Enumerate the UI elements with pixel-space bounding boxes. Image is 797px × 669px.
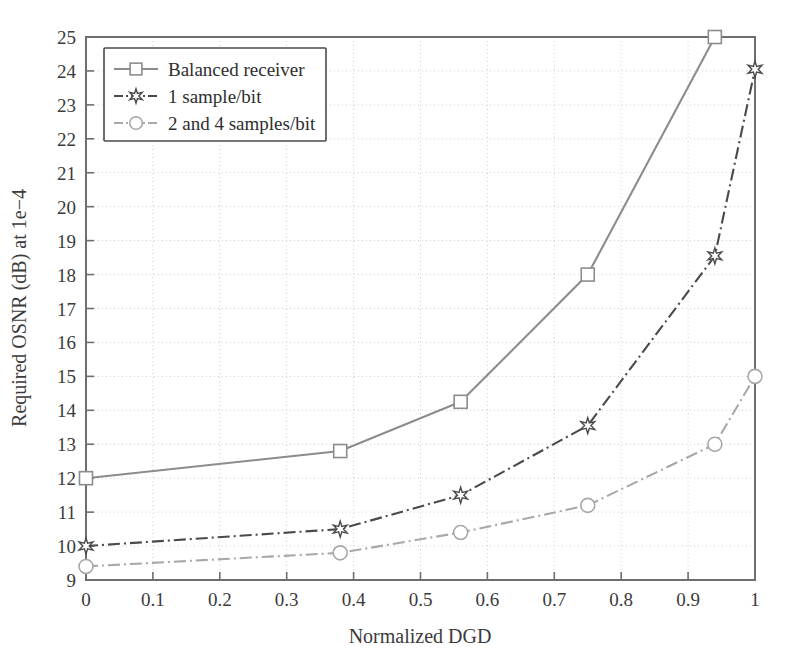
line-chart: 910111213141516171819202122232425 00.10.… — [0, 0, 797, 669]
data-point-marker — [454, 525, 468, 539]
legend-label: Balanced receiver — [168, 59, 305, 80]
data-point-marker — [581, 498, 595, 512]
x-tick-label: 0.8 — [609, 589, 633, 610]
x-tick-label: 1 — [750, 589, 760, 610]
chart-page: 910111213141516171819202122232425 00.10.… — [0, 0, 797, 669]
data-point-marker — [581, 268, 594, 281]
data-point-marker — [130, 63, 142, 75]
x-tick-label: 0.6 — [476, 589, 500, 610]
data-point-marker — [333, 546, 347, 560]
y-tick-label: 20 — [57, 197, 76, 218]
x-tick-label: 0 — [81, 589, 91, 610]
y-tick-label: 22 — [57, 129, 76, 150]
data-point-marker — [708, 437, 722, 451]
data-point-marker — [130, 117, 143, 130]
data-point-marker — [748, 61, 762, 77]
y-tick-label: 17 — [57, 299, 76, 320]
series-2-and-4-samples-bit — [79, 369, 762, 573]
legend: Balanced receiver1 sample/bit2 and 4 sam… — [104, 48, 326, 141]
y-tick-label: 25 — [57, 27, 76, 48]
y-tick-labels: 910111213141516171819202122232425 — [57, 27, 77, 591]
x-tick-label: 0.7 — [542, 589, 566, 610]
x-tick-label: 0.9 — [676, 589, 700, 610]
y-tick-label: 15 — [57, 366, 76, 387]
x-tick-label: 0.5 — [409, 589, 433, 610]
y-tick-label: 16 — [57, 332, 76, 353]
data-point-marker — [454, 395, 467, 408]
y-tick-label: 12 — [57, 468, 76, 489]
x-tick-label: 0.2 — [208, 589, 232, 610]
y-tick-label: 10 — [57, 536, 76, 557]
data-point-marker — [708, 31, 721, 44]
y-tick-label: 9 — [67, 570, 77, 591]
y-tick-label: 11 — [58, 502, 76, 523]
y-tick-label: 21 — [57, 163, 76, 184]
legend-label: 1 sample/bit — [168, 86, 262, 107]
y-tick-label: 19 — [57, 231, 76, 252]
data-point-marker — [79, 559, 93, 573]
data-point-marker — [80, 472, 93, 485]
x-tick-labels: 00.10.20.30.40.50.60.70.80.91 — [81, 589, 760, 610]
y-tick-label: 14 — [57, 400, 77, 421]
y-axis-title: Required OSNR (dB) at 1e−4 — [8, 189, 31, 427]
y-tick-label: 18 — [57, 265, 76, 286]
y-tick-label: 24 — [57, 61, 77, 82]
x-tick-label: 0.1 — [141, 589, 165, 610]
y-tick-label: 13 — [57, 434, 76, 455]
x-tick-label: 0.4 — [342, 589, 366, 610]
y-tick-label: 23 — [57, 95, 76, 116]
x-tick-label: 0.3 — [275, 589, 299, 610]
data-point-marker — [454, 487, 468, 503]
data-point-marker — [334, 445, 347, 458]
data-point-marker — [748, 369, 762, 383]
x-axis-title: Normalized DGD — [349, 625, 492, 647]
legend-label: 2 and 4 samples/bit — [168, 113, 316, 134]
